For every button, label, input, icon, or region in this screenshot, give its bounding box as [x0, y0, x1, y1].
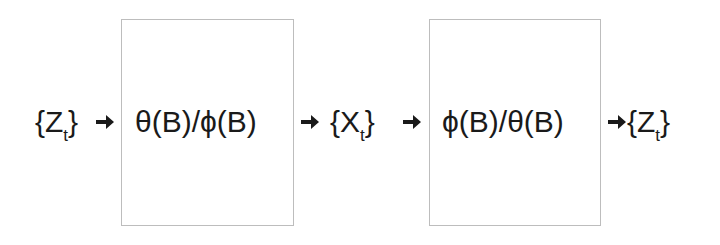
output-series-label: {Zt} — [627, 100, 670, 149]
arrow-right-icon — [402, 113, 422, 131]
arrow-right-icon — [300, 113, 320, 131]
open-brace: { — [35, 105, 45, 138]
arrow-right-icon — [95, 113, 115, 131]
filter-2-label: ϕ(B)/θ(B) — [442, 100, 564, 144]
series-subscript: t — [360, 126, 365, 145]
series-subscript: t — [63, 126, 68, 145]
arrow-right-icon — [607, 113, 627, 131]
input-series-label: {Zt} — [35, 100, 78, 149]
close-brace: } — [68, 105, 78, 138]
middle-series-label: {Xt} — [330, 100, 375, 149]
close-brace: } — [660, 105, 670, 138]
open-brace: { — [330, 105, 340, 138]
series-symbol: X — [340, 105, 360, 138]
series-symbol: Z — [637, 105, 655, 138]
filter-1-label: θ(B)/ϕ(B) — [135, 100, 257, 144]
series-symbol: Z — [45, 105, 63, 138]
series-subscript: t — [655, 126, 660, 145]
close-brace: } — [365, 105, 375, 138]
open-brace: { — [627, 105, 637, 138]
